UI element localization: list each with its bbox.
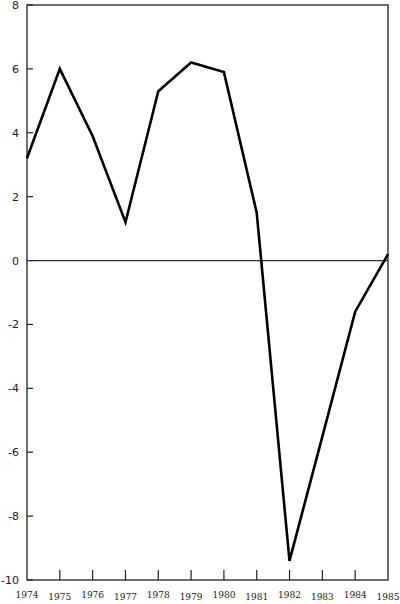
x-tick-label: 1977 [114, 592, 137, 602]
y-tick-label: -4 [8, 382, 19, 395]
y-tick-label: -10 [1, 574, 19, 587]
x-tick-label: 1981 [245, 592, 268, 602]
data-line [27, 63, 388, 561]
x-tick-label: 1979 [180, 592, 203, 602]
y-tick-label: -8 [8, 510, 19, 523]
line-chart: 86420-2-4-6-8-10 19741975197619771978197… [0, 0, 400, 604]
x-tick-label: 1976 [81, 590, 104, 600]
y-tick-label: 6 [12, 63, 19, 76]
x-axis: 1974197519761977197819791980198119821983… [16, 570, 400, 602]
x-tick-label: 1983 [311, 592, 334, 602]
y-tick-label: 2 [12, 191, 19, 204]
y-tick-label: 0 [12, 255, 19, 268]
x-tick-label: 1980 [212, 590, 235, 600]
y-tick-label: 8 [12, 0, 19, 12]
y-tick-label: 4 [12, 127, 19, 140]
x-tick-label: 1978 [147, 590, 170, 600]
x-tick-label: 1984 [344, 590, 367, 600]
plot-frame [27, 5, 388, 580]
x-tick-label: 1975 [48, 592, 71, 602]
y-tick-label: -6 [8, 446, 19, 459]
y-axis: 86420-2-4-6-8-10 [1, 0, 33, 587]
y-tick-label: -2 [8, 318, 19, 331]
x-tick-label: 1982 [278, 590, 301, 600]
x-tick-label: 1974 [16, 590, 39, 600]
x-tick-label: 1985 [377, 592, 400, 602]
